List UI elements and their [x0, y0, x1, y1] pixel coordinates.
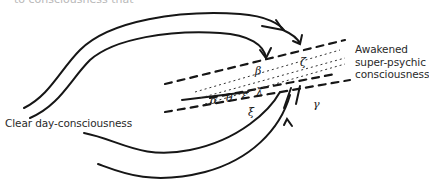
alpha-glyph: α: [210, 94, 218, 107]
zeta-glyph: ζ: [300, 56, 307, 69]
dotted-ray-2: [200, 58, 345, 98]
epsilon-glyph: ε: [242, 89, 248, 102]
xi-glyph: ξ: [248, 106, 255, 119]
lambda-glyph: λ: [255, 86, 263, 99]
gamma-glyph: γ: [313, 98, 320, 111]
label-clear-day-consciousness: Clear day-consciousness: [5, 117, 132, 130]
upper-inner-arc: [30, 32, 266, 118]
upper-arc-to-beta: [283, 30, 302, 44]
lower-arc-arrow: [284, 119, 292, 126]
label-awakened-super-psychic: Awakened super-psychic consciousness: [355, 43, 429, 81]
beta-glyph: β: [254, 65, 261, 78]
theta-glyph: θ: [226, 92, 233, 105]
